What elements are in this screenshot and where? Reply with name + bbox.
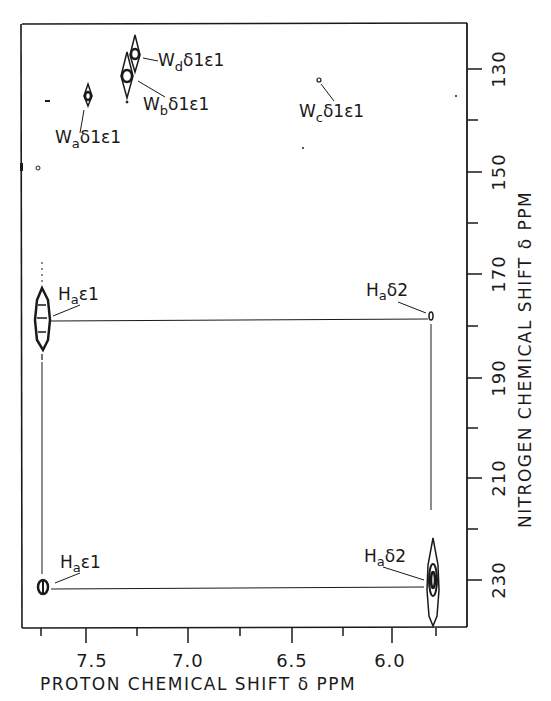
x-tick-label: 7.0 — [172, 650, 204, 671]
y-tick-label: 190 — [488, 359, 509, 396]
y-axis-ticks — [467, 69, 482, 580]
nmr-2d-spectrum: 7.5 7.0 6.5 6.0 PROTON CHEMICAL SHIFT δ … — [0, 0, 551, 701]
y-tick-label: 230 — [488, 561, 509, 598]
x-axis-ticks — [41, 628, 436, 643]
peak-ha-d2-lower — [427, 538, 439, 626]
peak-label-wc: Wcδ1ε1 — [299, 101, 364, 125]
x-axis-title: PROTON CHEMICAL SHIFT δ PPM — [40, 674, 356, 694]
plot-frame — [21, 23, 467, 628]
y-axis-title: NITROGEN CHEMICAL SHIFT δ PPM — [515, 191, 535, 528]
peaks — [20, 35, 457, 626]
y-tick-label: 150 — [488, 153, 509, 190]
peak-label-wa: Waδ1ε1 — [55, 127, 121, 151]
y-tick-label: 210 — [488, 459, 509, 496]
peak-label-ha-e1-lower: Haε1 — [60, 552, 101, 575]
peak-label-ha-d2-lower: Haδ2 — [364, 546, 406, 569]
peak-ha-e1-lower — [38, 580, 48, 594]
peak-ha-d2-upper — [429, 312, 433, 320]
peak-ha-e1-upper — [35, 262, 50, 360]
peak-labels: Wdδ1ε1 Wbδ1ε1 Waδ1ε1 Wcδ1ε1 Haε1 Haδ2 Ha… — [55, 50, 408, 575]
x-tick-label: 7.5 — [76, 650, 108, 671]
y-tick-label: 130 — [488, 50, 509, 87]
y-axis-tick-labels: 130 150 170 190 210 230 — [488, 50, 509, 598]
peak-wd-d1e1 — [130, 35, 140, 72]
peak-label-wd: Wdδ1ε1 — [158, 50, 224, 74]
peak-label-wb: Wbδ1ε1 — [143, 94, 209, 118]
y-tick-label: 170 — [488, 255, 509, 292]
peak-wc-d1e1 — [317, 78, 321, 82]
x-tick-label: 6.0 — [374, 650, 406, 671]
peak-label-ha-d2-upper: Haδ2 — [366, 280, 408, 303]
peak-label-ha-e1-upper: Haε1 — [58, 284, 99, 307]
x-axis-tick-labels: 7.5 7.0 6.5 6.0 — [76, 650, 406, 671]
peak-wa-d1e1 — [84, 84, 92, 106]
x-tick-label: 6.5 — [276, 650, 308, 671]
